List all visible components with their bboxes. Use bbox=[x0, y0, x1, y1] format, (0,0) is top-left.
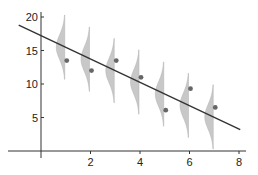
y-tick-label: 15 bbox=[26, 45, 38, 57]
data-point bbox=[114, 58, 119, 63]
y-tick-label: 5 bbox=[32, 112, 38, 124]
regression-line bbox=[19, 25, 241, 130]
half-violin bbox=[81, 27, 90, 91]
x-tick-label: 8 bbox=[236, 156, 242, 168]
data-point bbox=[139, 75, 144, 80]
x-tick-label: 6 bbox=[186, 156, 192, 168]
data-point bbox=[213, 105, 218, 110]
x-tick-label: 4 bbox=[137, 156, 143, 168]
axes: 24685101520 bbox=[8, 11, 246, 168]
y-tick-label: 10 bbox=[26, 78, 38, 90]
regression-line-path bbox=[19, 25, 241, 130]
data-point bbox=[188, 86, 193, 91]
half-violin bbox=[155, 62, 164, 126]
x-tick-label: 2 bbox=[87, 156, 93, 168]
half-violin bbox=[56, 15, 65, 79]
data-point bbox=[64, 58, 69, 63]
data-point bbox=[89, 68, 94, 73]
predictive-distributions bbox=[56, 15, 213, 149]
data-point bbox=[163, 108, 168, 113]
half-violin bbox=[106, 38, 115, 102]
half-violin bbox=[131, 50, 140, 114]
regression-chart: 24685101520 bbox=[0, 0, 258, 175]
half-violin bbox=[180, 73, 189, 137]
y-tick-label: 20 bbox=[26, 11, 38, 23]
